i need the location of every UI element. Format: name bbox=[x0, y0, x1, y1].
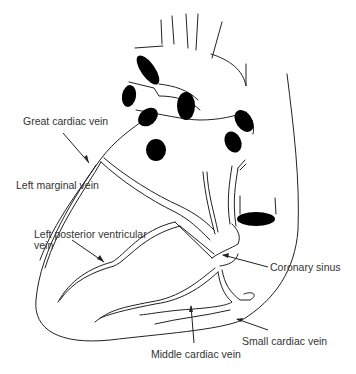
label-coronary-sinus: Coronary sinus bbox=[270, 262, 341, 273]
label-great-cardiac-vein: Great cardiac vein bbox=[23, 116, 108, 127]
label-middle-cardiac-vein: Middle cardiac vein bbox=[151, 349, 241, 360]
label-left-marginal-vein: Left marginal vein bbox=[16, 180, 99, 191]
vessel-openings bbox=[120, 52, 275, 226]
label-small-cardiac-vein: Small cardiac vein bbox=[242, 336, 327, 347]
label-left-posterior-ventricular-vein-line2: vein bbox=[34, 240, 53, 251]
